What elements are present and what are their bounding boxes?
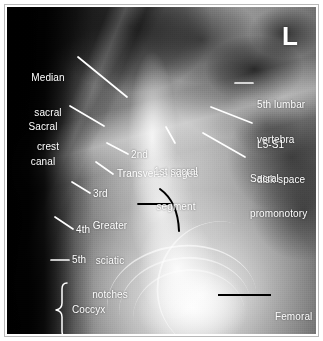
label-fifth-segment: 5th [72, 254, 86, 266]
label-fourth-segment: 4th [76, 224, 90, 236]
leader-third-segment [72, 182, 90, 193]
label-sacral-canal: Sacral canal [17, 98, 69, 190]
label-line: 1st sacral [140, 166, 212, 178]
label-line: Sacral [250, 173, 307, 185]
label-line: Femoral [275, 311, 312, 323]
label-line: L5-S1 [257, 139, 305, 151]
label-line: promonotory [250, 208, 307, 220]
label-coccyx: Coccyx [72, 304, 105, 316]
leader-fourth-segment [55, 217, 73, 229]
radiograph-plate: L Median sacral crest Sacral canal 2nd T… [7, 7, 316, 334]
label-line: Median [19, 72, 77, 84]
leader-transverse-ridges [96, 162, 113, 174]
label-sacral-promonotory: Sacral promonotory [250, 150, 307, 242]
label-line: 5th lumbar [257, 99, 305, 111]
label-line: Sacral [17, 121, 69, 133]
leader-median-sacral-crest [78, 57, 127, 97]
brace-coccyx [56, 283, 67, 334]
label-femoral-heads: Femoral heads [275, 288, 312, 334]
leader-l5s1-disk-space [211, 107, 252, 123]
label-line: notches [83, 289, 137, 301]
radiograph-figure: L Median sacral crest Sacral canal 2nd T… [0, 0, 323, 341]
label-line: segment [140, 201, 212, 213]
label-line: sciatic [83, 255, 137, 267]
leader-second-segment [107, 143, 128, 154]
leader-first-sacral-segment [166, 127, 175, 143]
label-line: Greater [83, 220, 137, 232]
side-marker-l: L [282, 23, 298, 49]
label-first-sacral-segment: 1st sacral segment [140, 143, 212, 235]
label-line: canal [17, 156, 69, 168]
